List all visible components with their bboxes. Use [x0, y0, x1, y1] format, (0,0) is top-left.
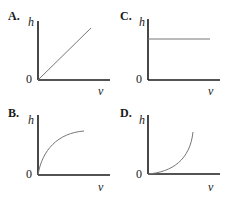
graph-d — [0, 0, 231, 200]
panel-d: D. h 0 v — [0, 0, 231, 200]
